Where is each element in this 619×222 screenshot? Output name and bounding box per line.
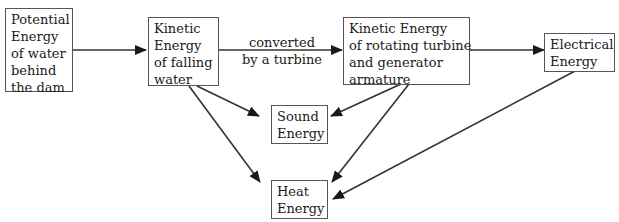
node-kinetic-water: Kinetic Energy of falling water xyxy=(148,17,219,86)
arrow-water-to-sound xyxy=(197,86,259,116)
node-sound-energy: Sound Energy xyxy=(271,105,328,144)
arrow-water-to-heat xyxy=(189,86,260,182)
edge-label-converted: converted by a turbine xyxy=(226,34,338,68)
node-kinetic-turbine: Kinetic Energy of rotating turbine and g… xyxy=(343,17,470,85)
arrow-turbine-to-sound xyxy=(331,84,401,116)
node-potential-energy: Potential Energy of water behind the dam xyxy=(5,8,73,92)
node-electrical-energy: Electrical Energy xyxy=(544,33,615,72)
node-heat-energy: Heat Energy xyxy=(271,180,328,219)
